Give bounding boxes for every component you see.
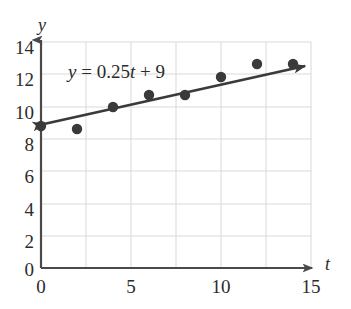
chart-figure: 14 12 10 8 6 4 2 0 0 5 10 15 y t y = 0.2… [0,0,351,309]
y-axis-label: y [38,16,46,34]
x-tick-label-0: 0 [26,277,56,296]
equation-intercept: 9 [155,61,165,82]
data-point [216,72,226,82]
trendline-equation-label: y = 0.25t + 9 [68,62,165,81]
equation-equals: = [76,61,96,82]
y-tick-label-12: 12 [6,70,34,89]
y-tick-label-4: 4 [6,200,34,219]
equation-plus: + [135,61,155,82]
data-point [180,90,190,100]
y-tick-label-10: 10 [6,103,34,122]
scatter-plot-canvas [0,0,351,309]
data-point [72,124,82,134]
equation-slope: 0.25 [97,61,130,82]
x-tick-label-15: 15 [296,277,326,296]
data-point [288,59,298,69]
data-point [144,90,154,100]
y-tick-label-8: 8 [6,135,34,154]
data-point [36,121,46,131]
x-axis-label: t [325,255,330,273]
y-tick-label-6: 6 [6,167,34,186]
y-tick-label-14: 14 [6,38,34,57]
data-point [252,59,262,69]
x-tick-label-10: 10 [206,277,236,296]
data-point [108,102,118,112]
y-tick-label-2: 2 [6,232,34,251]
x-tick-label-5: 5 [116,277,146,296]
